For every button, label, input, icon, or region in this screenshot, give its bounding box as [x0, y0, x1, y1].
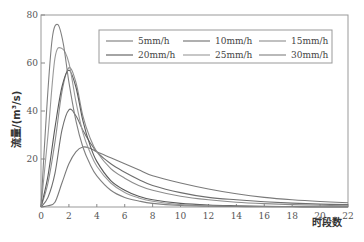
x-tick-label: 10 [175, 211, 187, 221]
y-axis-label: 流量/(m³/s) [10, 91, 22, 148]
x-axis-label: 时段数 [312, 216, 343, 228]
x-tick-label: 18 [286, 211, 298, 221]
runoff-hydrograph-chart: 20406080 0246810121416182022 5mm/h10mm/h… [0, 0, 364, 242]
y-tick-label: 80 [27, 10, 39, 20]
x-tick-label: 6 [122, 211, 128, 221]
y-tick-label: 40 [27, 106, 39, 116]
x-tick-label: 16 [259, 211, 271, 221]
legend-label: 25mm/h [215, 50, 253, 60]
x-tick-label: 0 [38, 211, 44, 221]
x-tick-label: 8 [150, 211, 156, 221]
x-tick-label: 14 [231, 211, 243, 221]
legend-label: 15mm/h [291, 36, 329, 46]
y-tick-label: 60 [27, 58, 39, 68]
legend-label: 10mm/h [215, 36, 253, 46]
legend-label: 20mm/h [138, 50, 176, 60]
legend: 5mm/h10mm/h15mm/h20mm/h25mm/h30mm/h [99, 30, 332, 63]
x-tick-label: 2 [66, 211, 72, 221]
y-tick-label: 20 [27, 154, 39, 164]
legend-label: 5mm/h [138, 36, 170, 46]
series-line-25mm-per-h [41, 47, 348, 207]
x-tick-label: 22 [342, 211, 353, 221]
x-tick-label: 4 [94, 211, 100, 221]
y-axis-ticks: 20406080 [27, 10, 45, 164]
x-tick-label: 12 [203, 211, 214, 221]
legend-label: 30mm/h [291, 50, 329, 60]
